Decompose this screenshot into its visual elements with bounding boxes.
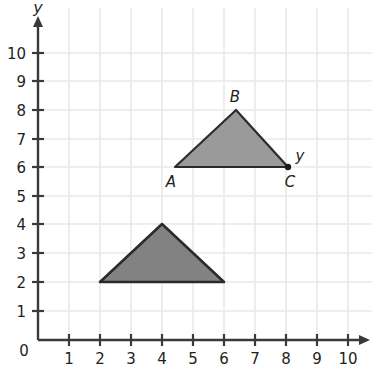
x-tick-label: 9	[312, 350, 322, 368]
x-tick-label: 10	[338, 350, 357, 368]
coordinate-plane-figure: 1 2 3 4 5 6 7 8 9 10 1 2 3 4 5 6 7 8 9 1…	[0, 0, 380, 374]
x-tick-label: 4	[157, 350, 167, 368]
y-tick-label: 8	[16, 102, 26, 120]
x-tick-label: 5	[188, 350, 198, 368]
x-tick-label: 8	[281, 350, 291, 368]
x-axis-tick-labels: 1 2 3 4 5 6 7 8 9 10	[64, 350, 357, 368]
y-tick-label: 6	[16, 159, 26, 177]
x-axis-arrowhead	[359, 335, 370, 345]
y-tick-label: 2	[16, 274, 26, 292]
axis-arrowheads	[33, 16, 370, 345]
y-tick-label: 9	[16, 73, 26, 91]
x-tick-label: 1	[64, 350, 74, 368]
vertex-label-c: C	[285, 173, 296, 191]
y-axis-tick-labels: 1 2 3 4 5 6 7 8 9 10	[7, 45, 26, 321]
x-tick-label: 6	[219, 350, 229, 368]
y-tick-label: 5	[16, 188, 26, 206]
vertical-gridlines	[69, 8, 348, 340]
y-axis-arrowhead	[33, 16, 43, 27]
x-tick-label: 3	[126, 350, 136, 368]
y-tick-label: 3	[16, 245, 26, 263]
x-tick-label: 7	[250, 350, 260, 368]
coordinate-plane-svg: 1 2 3 4 5 6 7 8 9 10 1 2 3 4 5 6 7 8 9 1…	[0, 0, 380, 374]
annotation-y-label: y	[295, 147, 306, 165]
y-tick-label: 1	[16, 303, 26, 321]
vertex-label-b: B	[230, 88, 240, 106]
vertex-label-a: A	[165, 173, 176, 191]
y-axis-label: y	[32, 0, 43, 17]
axes	[38, 22, 364, 340]
y-tick-label: 10	[7, 45, 26, 63]
y-tick-label: 4	[16, 216, 26, 234]
x-tick-label: 2	[95, 350, 105, 368]
y-tick-label: 7	[16, 131, 26, 149]
origin-label: 0	[19, 342, 29, 360]
point-marker-c	[285, 164, 291, 170]
